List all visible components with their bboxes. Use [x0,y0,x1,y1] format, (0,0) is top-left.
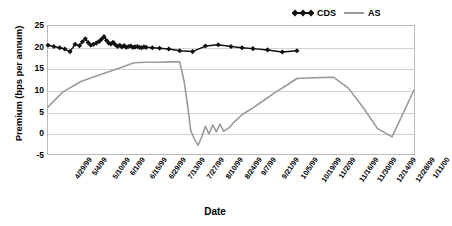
legend-label: CDS [317,8,336,18]
data-point-marker [280,49,285,54]
y-tick-label: -5 [22,151,44,159]
legend-entry-as: AS [343,8,381,18]
data-point-marker [51,44,56,49]
y-tick-label: 10 [22,86,44,94]
data-point-marker [166,46,171,51]
data-point-marker [57,45,62,50]
data-point-marker [177,48,182,53]
data-point-marker [150,45,155,50]
data-point-marker [203,43,208,48]
data-point-marker [157,46,162,51]
x-tick-label: 9/21/99 [281,156,302,181]
plot-area [47,25,415,155]
data-point-marker [239,45,244,50]
legend-entry-cds: CDS [292,8,336,18]
x-tick-label: 5/10/99 [111,156,132,181]
y-tick-label: 20 [22,43,44,51]
gray-line-marker [343,8,365,18]
x-tick-label: 6/29/99 [168,156,189,181]
x-tick-label: 7/27/99 [205,156,226,181]
series-layer [48,26,414,154]
series-line-as [48,62,414,146]
data-point-marker [216,42,221,47]
data-point-marker [62,46,67,51]
chart-legend: CDSAS [292,6,381,20]
y-tick-label: 5 [22,108,44,116]
data-point-marker [265,47,270,52]
x-tick-label: 8/10/99 [224,156,245,181]
x-tick-label: 6/15/99 [149,156,170,181]
diamond-line-marker [292,8,314,18]
legend-label: AS [368,8,381,18]
x-tick-label: 10/5/99 [299,156,320,181]
data-point-marker [294,48,299,53]
y-tick-label: 25 [22,21,44,29]
y-axis-tick-labels: 2520151050-5 [18,0,44,226]
x-axis-title: Date [0,206,430,217]
data-point-marker [250,46,255,51]
y-tick-label: 0 [22,129,44,137]
data-point-marker [228,44,233,49]
data-point-marker [45,43,50,48]
x-axis-tick-labels: 4/29/995/4/995/10/996/1/996/15/996/29/99… [47,156,415,206]
data-point-marker [190,49,195,54]
y-tick-label: 15 [22,64,44,72]
x-tick-label: 7/13/99 [186,156,207,181]
